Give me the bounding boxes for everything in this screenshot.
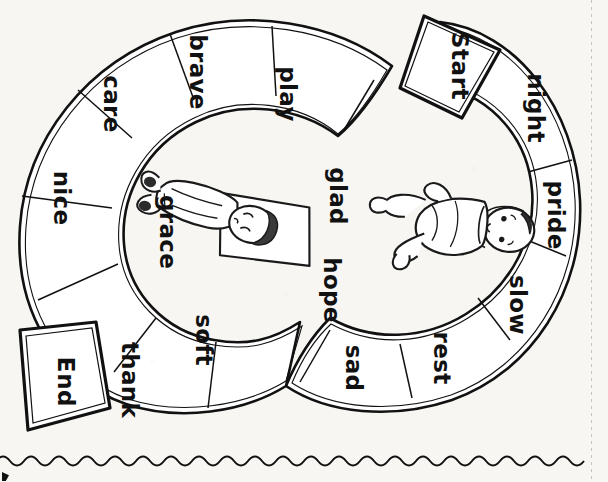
cell-label-end: End [53,357,79,407]
cell-label-start: Start [447,32,473,100]
cell-label-thank: thank [117,342,143,418]
cell-label-soft: soft [191,314,217,366]
cell-label-nice: nice [49,171,75,226]
cell-label-night: night [523,73,549,143]
cell-label-hope: hope [319,257,345,322]
cell-label-brave: brave [185,34,211,109]
cell-label-glad: glad [325,167,351,225]
worksheet-page: Start night pride slow rest sad hope gla… [0,0,608,482]
wavy-tear-line [0,457,584,466]
cell-label-rest: rest [429,332,455,385]
cell-label-grace: grace [155,195,181,269]
cell-label-play: play [275,66,301,121]
cell-label-pride: pride [543,180,569,249]
cell-label-slow: slow [505,275,531,335]
board-game-graphic: Start night pride slow rest sad hope gla… [0,0,608,482]
cell-label-care: care [99,75,125,132]
cell-label-sad: sad [341,345,367,392]
